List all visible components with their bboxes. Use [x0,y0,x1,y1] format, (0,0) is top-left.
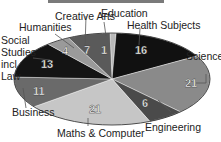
value-business: 11 [33,85,45,97]
value-creative-arts: 7 [84,44,90,56]
value-science: 21 [185,77,197,89]
label-social-1: Social [1,34,30,46]
pie-chart: Creative Arts Education Health Subjects … [0,0,221,142]
value-education: 1 [101,44,107,56]
label-engineering: Engineering [145,121,201,133]
label-business: Business [12,106,55,118]
label-social-2: Studies [1,46,36,58]
label-humanities: Humanities [19,21,72,33]
value-humanities: 4 [62,45,69,57]
value-engineering: 6 [142,97,148,109]
value-maths-computer: 21 [89,103,101,115]
label-social-3: incl [1,58,17,70]
value-social-studies: 13 [41,58,53,70]
label-education: Education [101,7,148,19]
label-maths-computer: Maths & Computer [57,127,145,139]
label-science: Science [186,50,221,62]
label-social-4: Law [1,70,21,82]
label-health-subjects: Health Subjects [127,19,201,31]
value-health-subjects: 16 [135,44,147,56]
